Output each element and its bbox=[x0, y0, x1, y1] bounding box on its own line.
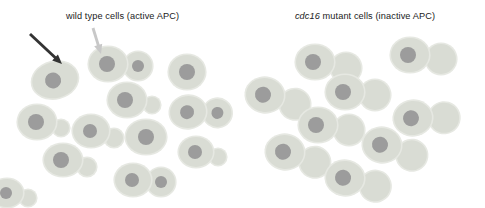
arrested-budded-cell-5-bud bbox=[334, 115, 364, 145]
arrested-budded-cell-4-bud bbox=[360, 80, 390, 110]
arrested-budded-cell-5-nucleus bbox=[308, 117, 324, 133]
arrested-budded-cell-6-bud bbox=[428, 101, 461, 134]
figure-container: wild type cells (active APC) cdc16 mutan… bbox=[0, 0, 485, 208]
panel-wild-type: wild type cells (active APC) bbox=[0, 0, 245, 208]
panel-cdc16-mutant: cdc16 mutant cells (inactive APC) bbox=[245, 0, 485, 208]
annotation-arrows-wild-type bbox=[0, 0, 245, 208]
arrested-budded-cell-2-bud bbox=[426, 44, 456, 74]
arrested-budded-cell-2-nucleus bbox=[400, 47, 416, 63]
unbudded-cell-arrow bbox=[30, 34, 62, 64]
cell-field-mutant bbox=[245, 0, 485, 208]
arrested-budded-cell-1-nucleus bbox=[305, 54, 321, 70]
budded-cell-arrow bbox=[93, 28, 102, 54]
arrested-budded-cell-4-nucleus bbox=[335, 84, 351, 100]
